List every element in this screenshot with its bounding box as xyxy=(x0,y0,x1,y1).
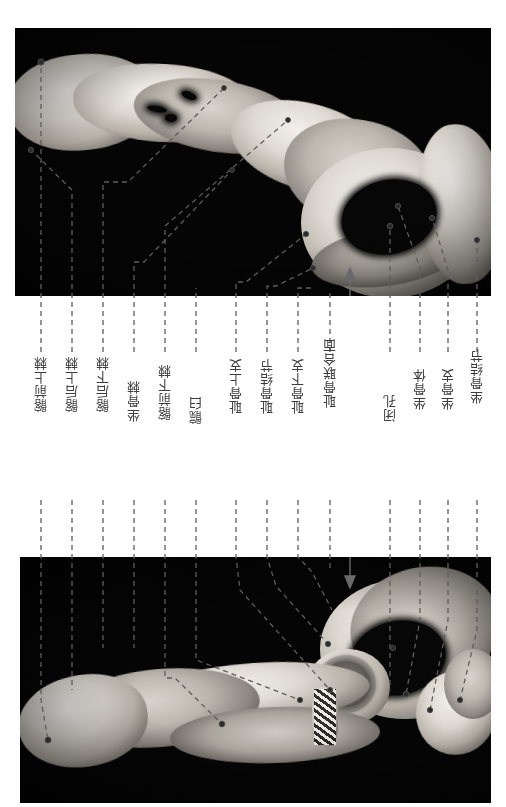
figure-page: 髂前上棘 髂后上棘 髂后下棘 坐骨棘 髂前下棘 髋臼 耻骨上支 耻骨结节 耻骨下… xyxy=(0,0,506,807)
label-band: 髂前上棘 髂后上棘 髂后下棘 坐骨棘 髂前下棘 髋臼 耻骨上支 耻骨结节 耻骨下… xyxy=(0,296,506,557)
label-acetabulum: 髋臼 xyxy=(189,396,203,424)
label-body-of-ischium: 坐骨体 xyxy=(413,368,427,410)
label-iliac-anterior-superior-spine: 髂前上棘 xyxy=(34,356,48,412)
label-iliac-posterior-inferior-spine: 髂后下棘 xyxy=(96,356,110,412)
label-inferior-pubic-ramus: 耻骨下支 xyxy=(291,358,305,414)
label-symphysial-surface-of-pubis: 耻骨联合面 xyxy=(323,338,337,408)
label-obturator-foramen: 闭孔 xyxy=(383,394,397,422)
photo-film-bottom xyxy=(20,557,491,803)
label-pubic-tubercle: 耻骨结节 xyxy=(260,358,274,414)
label-ischial-tuberosity: 坐骨结节 xyxy=(470,348,484,404)
label-iliac-posterior-superior-spine: 髂后上棘 xyxy=(65,356,79,412)
hip-bone-photo-bottom xyxy=(20,557,491,803)
hip-bone-photo-top xyxy=(15,28,491,296)
label-ischial-spine: 坐骨棘 xyxy=(127,380,141,422)
photo-film-top xyxy=(15,28,491,296)
label-ramus-of-ischium: 坐骨支 xyxy=(441,368,455,410)
label-iliac-anterior-inferior-spine: 髂前下棘 xyxy=(158,364,172,420)
label-superior-pubic-ramus: 耻骨上支 xyxy=(229,358,243,414)
